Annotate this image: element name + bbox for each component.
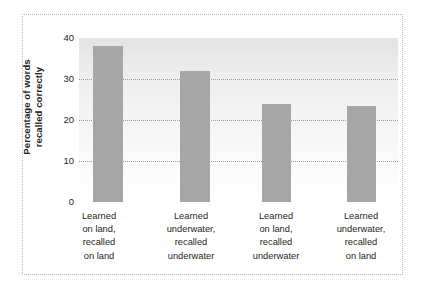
y-tick-label-0: 0 [48, 197, 74, 207]
bar-learned-on-land-recalled-on-land [93, 46, 123, 202]
x-category-label-2-line-2: underwater, [148, 223, 234, 236]
x-category-label-1: Learned on land, recalled on land [61, 210, 137, 263]
x-category-label-1-line-4: on land [61, 250, 137, 263]
y-axis-title-line-1: Percentage of words [21, 59, 33, 154]
x-category-label-3-line-2: on land, [233, 223, 319, 236]
y-tick-label-10: 10 [48, 156, 74, 166]
plot-area [79, 38, 398, 202]
bar-chart-figure: Percentage of words recalled correctly 4… [0, 0, 424, 289]
x-category-label-1-line-2: on land, [61, 223, 137, 236]
x-category-label-3-line-1: Learned [233, 210, 319, 223]
x-category-label-2-line-3: recalled [148, 236, 234, 249]
y-tick-label-30: 30 [48, 74, 74, 84]
x-category-label-1-line-1: Learned [61, 210, 137, 223]
y-axis-title: Percentage of words recalled correctly [18, 32, 48, 182]
x-category-label-4-line-4: on land [318, 250, 404, 263]
x-category-label-4: Learned underwater, recalled on land [318, 210, 404, 263]
x-category-label-4-line-1: Learned [318, 210, 404, 223]
x-category-label-1-line-3: recalled [61, 236, 137, 249]
x-category-label-2-line-4: underwater [148, 250, 234, 263]
x-category-label-3-line-3: recalled [233, 236, 319, 249]
bar-learned-on-land-recalled-underwater [262, 104, 291, 202]
x-category-label-2-line-1: Learned [148, 210, 234, 223]
y-tick-label-20: 20 [48, 115, 74, 125]
x-category-label-4-line-3: recalled [318, 236, 404, 249]
y-axis-title-line-2: recalled correctly [33, 67, 45, 148]
x-category-label-2: Learned underwater, recalled underwater [148, 210, 234, 263]
bar-learned-underwater-recalled-on-land [347, 106, 376, 202]
x-category-label-3-line-4: underwater [233, 250, 319, 263]
y-tick-label-40: 40 [48, 33, 74, 43]
x-category-label-3: Learned on land, recalled underwater [233, 210, 319, 263]
x-category-label-4-line-2: underwater, [318, 223, 404, 236]
bar-learned-underwater-recalled-underwater [180, 71, 210, 202]
gridline-30 [79, 79, 398, 80]
